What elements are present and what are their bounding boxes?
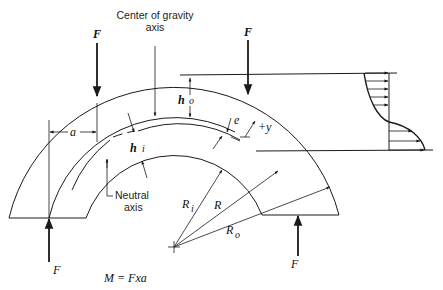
a-label: a bbox=[70, 125, 76, 139]
ho-label: h bbox=[178, 93, 185, 107]
hi-arrow-inner bbox=[142, 161, 147, 178]
plus-y-arrow bbox=[245, 121, 255, 137]
stress-distribution bbox=[364, 73, 425, 150]
ro-sub: o bbox=[235, 229, 240, 240]
force-label-top-right: F bbox=[243, 25, 252, 39]
cg-left-arrow bbox=[128, 113, 134, 132]
neutral-axis-label-1: Neutral bbox=[115, 189, 149, 201]
cg-axis-label-1: Center of gravity bbox=[116, 9, 194, 21]
neutral-axis-leader bbox=[107, 160, 113, 196]
force-label-top-left: F bbox=[92, 27, 101, 41]
neutral-axis-label-2: axis bbox=[124, 201, 143, 213]
force-label-bottom-left: F bbox=[52, 263, 61, 277]
moment-equation: M = Fxa bbox=[103, 271, 147, 285]
cg-axis-label-2: axis bbox=[146, 21, 165, 33]
hi-sub: i bbox=[142, 143, 145, 154]
outer-arc bbox=[9, 87, 339, 218]
neutral-axis-arc-top bbox=[138, 124, 240, 140]
curved-beam-diagram: F F F F a Center of gravity axis h o h i… bbox=[0, 0, 443, 290]
force-label-bottom-right: F bbox=[290, 257, 299, 271]
plus-y-label: +y bbox=[258, 120, 272, 134]
ri-sub: i bbox=[191, 203, 194, 214]
ri-label: R bbox=[181, 197, 190, 211]
neutral-axis-arc bbox=[72, 140, 110, 190]
r-label: R bbox=[213, 198, 222, 212]
hi-arrow-outer bbox=[213, 136, 222, 149]
hi-label: h bbox=[130, 141, 137, 155]
ro-label: R bbox=[225, 223, 234, 237]
inner-arc bbox=[86, 156, 262, 218]
ho-sub: o bbox=[189, 95, 194, 106]
e-label: e bbox=[234, 113, 240, 127]
